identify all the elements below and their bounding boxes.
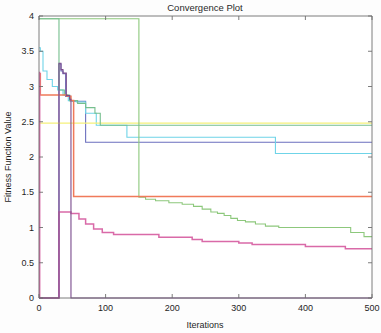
x-axis-label: Iterations [186,320,224,330]
x-tick-label: 0 [36,303,41,313]
y-tick-label: 0.5 [21,258,34,268]
x-tick-label: 100 [98,303,113,313]
x-tick-label: 300 [231,303,246,313]
y-tick-label: 3 [29,82,34,92]
convergence-plot-svg: 010020030040050000.511.522.533.54 Conver… [0,0,381,333]
y-tick-label: 4 [29,11,34,21]
y-tick-label: 1 [29,223,34,233]
convergence-plot-figure: 010020030040050000.511.522.533.54 Conver… [0,0,381,333]
y-axis-label: Fitness Function Value [3,112,13,203]
x-tick-label: 400 [298,303,313,313]
y-tick-label: 0 [29,293,34,303]
y-tick-label: 2.5 [21,117,34,127]
chart-title: Convergence Plot [167,2,243,13]
x-tick-label: 500 [364,303,379,313]
x-tick-label: 200 [165,303,180,313]
plot-background [39,16,372,298]
y-tick-label: 1.5 [21,187,34,197]
y-tick-label: 2 [29,152,34,162]
y-tick-label: 3.5 [21,46,34,56]
